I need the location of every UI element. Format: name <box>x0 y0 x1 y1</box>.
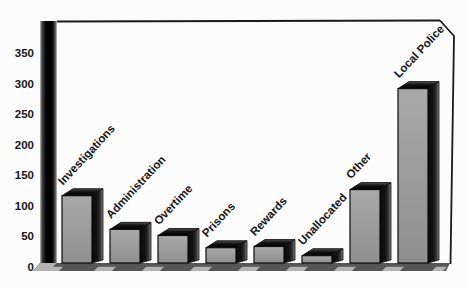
y-axis-pillar <box>40 21 57 263</box>
bar-rewards <box>254 239 295 263</box>
y-axis-tick-label: 150 <box>15 169 34 181</box>
bar-side-face <box>92 189 103 263</box>
y-axis-tick-label: 100 <box>15 200 34 212</box>
y-axis-tick-label: 350 <box>15 47 34 59</box>
bar-front-face <box>158 235 188 263</box>
bar-prisons <box>206 241 247 263</box>
y-axis-tick-label: 300 <box>15 78 34 90</box>
bar-front-face <box>302 256 332 263</box>
bar-front-face <box>254 246 284 263</box>
bar-front-face <box>62 196 92 263</box>
bar-front-face <box>398 89 428 263</box>
plot-frame-top <box>57 21 440 22</box>
bar-investigations <box>62 189 103 263</box>
bar-administration <box>110 222 151 263</box>
bar-side-face <box>380 183 391 263</box>
y-axis-tick-label: 0 <box>28 261 34 273</box>
bar-front-face <box>110 229 140 263</box>
bar-chart-figure: 050100150200250300350InvestigationsAdmin… <box>0 0 468 287</box>
bar-local-police <box>398 82 439 263</box>
bar-other <box>350 183 391 263</box>
bar-chart-canvas: 050100150200250300350InvestigationsAdmin… <box>0 0 468 287</box>
y-axis-tick-label: 250 <box>15 108 34 120</box>
bar-side-face <box>140 222 151 263</box>
bar-overtime <box>158 228 199 263</box>
y-axis-tick-label: 50 <box>21 230 34 242</box>
bar-side-face <box>428 82 439 263</box>
bar-front-face <box>350 190 380 263</box>
y-axis-tick-label: 200 <box>15 139 34 151</box>
bar-front-face <box>206 248 236 263</box>
